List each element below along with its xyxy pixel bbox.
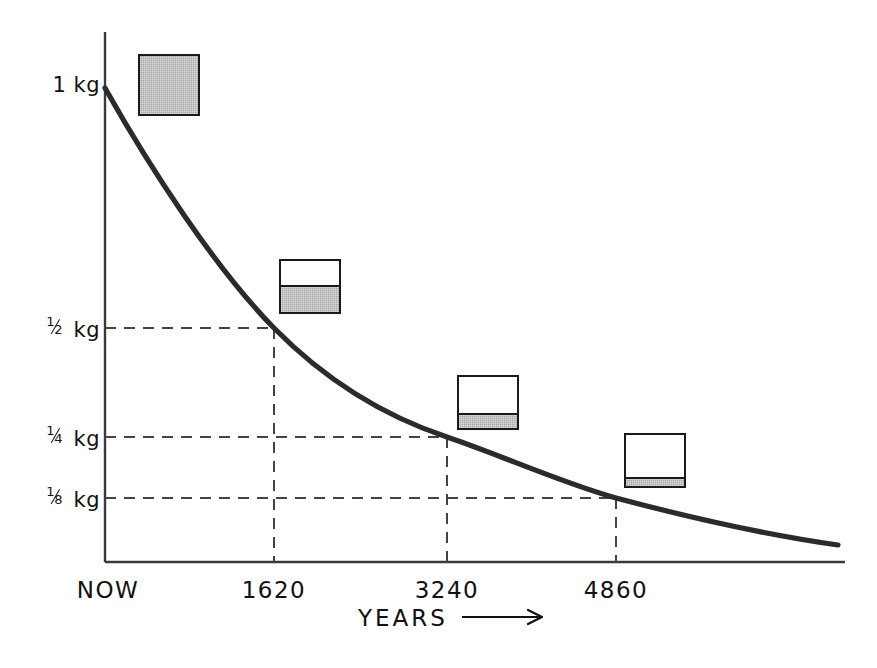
- decay-chart-figure: 1 kg 1 2 kg 1 4 kg 1 8 kg NOW 1620 3240 …: [0, 0, 877, 668]
- sample-box-3240: [457, 375, 519, 430]
- fraction-denominator: 2: [54, 322, 63, 337]
- fraction-one-quarter: 1 4: [46, 429, 66, 450]
- fraction-one-half: 1 2: [46, 320, 66, 341]
- chart-canvas: [0, 0, 877, 668]
- years-arrow-icon: [462, 610, 542, 624]
- sample-box-fill-3240: [459, 413, 517, 428]
- fraction-denominator: 8: [54, 492, 63, 507]
- y-tick-label-1kg: 1 kg: [10, 73, 100, 97]
- y-tick-unit-half-kg: kg: [74, 318, 101, 342]
- fraction-denominator: 4: [54, 431, 63, 446]
- x-tick-label-1620: 1620: [219, 577, 329, 603]
- y-tick-unit-quarter-kg: kg: [74, 427, 101, 451]
- sample-box-fill-now: [140, 56, 198, 114]
- x-tick-label-4860: 4860: [561, 577, 671, 603]
- x-tick-label-now: NOW: [53, 577, 163, 603]
- sample-box-fill-1620: [281, 285, 339, 313]
- sample-box-4860: [624, 433, 686, 488]
- fraction-one-eighth: 1 8: [46, 490, 66, 511]
- decay-curve: [105, 88, 838, 545]
- x-axis-title: YEARS: [358, 605, 448, 631]
- y-tick-whole-1kg: 1: [52, 73, 66, 97]
- y-tick-unit-eighth-kg: kg: [74, 488, 101, 512]
- y-tick-unit-1kg: kg: [74, 73, 101, 97]
- sample-box-now: [138, 54, 200, 116]
- y-tick-label-half-kg: 1 2 kg: [10, 318, 100, 342]
- sample-box-fill-4860: [626, 477, 684, 486]
- x-tick-label-3240: 3240: [392, 577, 502, 603]
- sample-box-1620: [279, 259, 341, 314]
- y-tick-label-quarter-kg: 1 4 kg: [10, 427, 100, 451]
- y-tick-label-eighth-kg: 1 8 kg: [10, 488, 100, 512]
